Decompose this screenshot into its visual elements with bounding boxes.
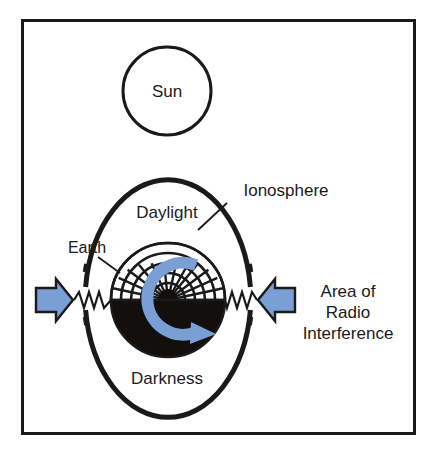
ionosphere-dash-left-lower — [85, 317, 86, 325]
area-label-line-3: Interference — [303, 324, 394, 343]
darkness-label: Darkness — [131, 369, 203, 388]
area-label-line-2: Radio — [326, 303, 370, 322]
diagram-root: Sun — [0, 0, 431, 452]
page-background — [0, 0, 431, 452]
ionosphere-label: Ionosphere — [243, 181, 328, 200]
earth-pole-center — [159, 289, 177, 307]
earth-label: Earth — [68, 239, 106, 256]
ionosphere-dash-right-lower — [249, 317, 250, 325]
sun-group: Sun — [123, 47, 211, 135]
diagram-canvas: Sun — [0, 0, 431, 452]
ionosphere-dash-left-upper — [85, 264, 86, 272]
ionosphere-dash-right-upper — [249, 264, 250, 272]
sun-label: Sun — [152, 82, 182, 101]
daylight-label: Daylight — [136, 203, 198, 222]
area-label-line-1: Area of — [321, 282, 376, 301]
